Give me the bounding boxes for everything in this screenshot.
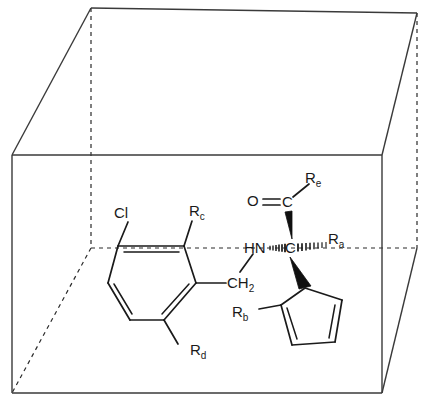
label-rd-base: R [190,341,201,358]
label-methylene-subscript: 2 [249,283,255,294]
cp-bond-c-d [292,342,335,345]
benzene-ring [108,246,196,320]
cp-bond-d-e [281,305,292,345]
label-amine: HN [244,240,266,255]
cp-bond-a-b [305,288,342,300]
box-edge-top-left-connector [12,8,91,155]
wedge-bond-stereocenter-to-cyclopentadiene [290,257,311,289]
label-rc-base: R [189,202,200,219]
label-methylene-base: CH [227,274,249,291]
cp-bond-e-a [281,288,305,305]
hashed-bond-stereocenter-to-ra [298,242,326,252]
label-re-base: R [305,169,316,186]
label-rc-subscript: c [200,211,205,222]
transparent-3d-box [12,8,417,393]
label-rb-subscript: b [243,312,249,323]
label-carbonyl-carbon: C [282,194,293,209]
figure-canvas: Cl Rc Rd CH2 HN C Ra O C Re Rb [0,0,432,411]
label-rd-subscript: d [201,350,207,361]
label-ra: Ra [328,231,344,250]
benzene-bond-c2-c3 [184,246,196,283]
label-stereocenter-carbon: C [285,240,296,255]
bond-cl-to-ring [118,222,128,246]
label-carbonyl-oxygen: O [247,193,259,208]
cp-bond-b-c [335,300,342,342]
bond-ch2-to-hn [240,254,253,272]
label-chlorine: Cl [114,205,128,220]
label-methylene: CH2 [227,275,254,294]
bond-rb-to-cyclopentadiene [259,305,281,309]
label-rb: Rb [232,304,248,323]
bond-rc-to-ring [184,221,192,246]
box-edge-bottom-right-connector [382,248,417,393]
box-edge-top-right-connector [382,13,417,155]
box-edge-bottom-left-connector [12,248,91,393]
benzene-bond-c3-c4 [164,283,196,320]
cyclopentadiene-ring [281,288,342,345]
label-re-subscript: e [316,178,322,189]
box-edge-back-top [91,8,417,13]
label-re: Re [305,170,321,189]
label-ra-subscript: a [339,239,345,250]
label-ra-base: R [328,230,339,247]
label-rc: Rc [189,203,205,222]
label-rd: Rd [190,342,206,361]
benzene-bond-c5-c6 [108,283,130,320]
benzene-bond-c6-c1 [108,246,118,283]
wedge-bond-stereocenter-to-carbonyl [285,211,292,239]
label-rb-base: R [232,303,243,320]
cp-double-bond-right [329,305,335,338]
benzene-double-bond-lower-right [162,284,189,314]
bond-ring-to-rd [164,320,178,344]
structure-svg [0,0,432,411]
